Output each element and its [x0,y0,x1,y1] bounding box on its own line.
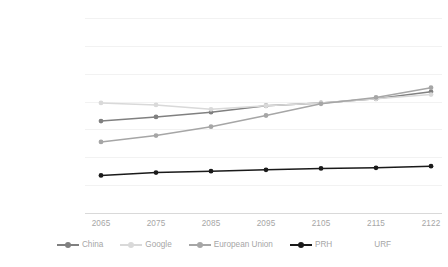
legend-label: China [81,240,103,249]
legend-swatch-icon [349,240,371,249]
data-point-marker [99,101,104,106]
data-point-marker [209,169,214,174]
chart-legend: ChinaGoogleEuropean UnionPRHURF [0,240,448,249]
data-point-marker [209,124,214,129]
x-tick-label: 2075 [147,219,166,228]
data-point-marker [319,101,324,106]
data-point-marker [99,173,104,178]
data-point-marker [429,164,434,169]
data-point-marker [154,170,159,175]
legend-swatch-icon [120,240,142,249]
line-chart: 01,000,000,0002,000,000,0003,000,000,000… [0,0,448,267]
data-point-marker [154,114,159,119]
x-tick-label: 2115 [367,219,385,228]
legend-swatch-icon [57,240,79,249]
legend-item-google[interactable]: Google [120,240,171,249]
data-point-marker [209,107,214,112]
series-lines [85,18,442,213]
legend-item-european-union[interactable]: European Union [189,240,273,249]
legend-label: Google [144,240,171,249]
legend-label: URF [373,240,391,249]
x-tick-label: 2065 [92,219,111,228]
x-tick-label: 2085 [202,219,221,228]
data-point-marker [429,85,434,90]
plot-area [85,18,442,213]
data-point-marker [264,167,269,172]
data-point-marker [264,103,269,108]
data-point-marker [374,165,379,170]
data-point-marker [154,133,159,138]
data-point-marker [319,166,324,171]
legend-swatch-icon [290,240,312,249]
x-tick-label: 2105 [312,219,331,228]
legend-item-urf[interactable]: URF [349,240,391,249]
data-point-marker [429,92,434,97]
legend-label: European Union [213,240,273,249]
x-tick-label: 2122 [422,219,441,228]
legend-item-prh[interactable]: PRH [290,240,332,249]
data-point-marker [264,113,269,118]
data-point-marker [99,140,104,145]
data-point-marker [374,95,379,100]
x-axis-line [85,213,442,214]
data-point-marker [99,119,104,124]
data-point-marker [154,103,159,108]
x-tick-label: 2095 [257,219,276,228]
legend-swatch-icon [189,240,211,249]
legend-item-china[interactable]: China [57,240,103,249]
legend-label: PRH [314,240,332,249]
